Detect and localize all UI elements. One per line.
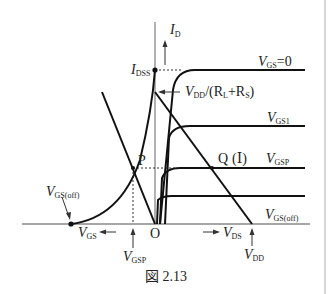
curve-vgs1-label: VGS1: [267, 110, 290, 126]
q-point: [210, 166, 214, 170]
figure-caption: 図 2.13: [145, 269, 187, 284]
vds-axis-label: VDS: [223, 225, 242, 241]
origin-label: O: [150, 226, 160, 241]
curve-vgs1: [165, 126, 305, 224]
curve-vgsp-label: VGSP: [266, 151, 290, 167]
idss-point: [152, 67, 157, 72]
curve-vgs-off-label: VGS(off): [265, 207, 299, 223]
vdd-rl-rs-label: VDD/(RL+RS): [185, 84, 255, 100]
p-point: [131, 166, 135, 170]
vgsp-bottom-label: VGSP: [123, 249, 147, 265]
p-label: P: [138, 153, 146, 168]
jfet-bias-diagram: ID IDSS VDD/(RL+RS) VGS=0 VGS1 Q (Ⅰ) VGS…: [0, 0, 330, 294]
vdd-bottom-label: VDD: [244, 247, 264, 263]
q-label: Q: [218, 151, 228, 166]
vgs-axis-label: VGS: [78, 225, 97, 241]
vgs-off-point: [68, 221, 73, 226]
transfer-curve: [71, 70, 155, 224]
idss-label: IDSS: [130, 62, 150, 78]
id-label: ID: [169, 22, 181, 39]
vgs-off-label: VGS(off): [46, 184, 80, 200]
bias-line: [102, 92, 155, 224]
curve-vgs0-label: VGS=0: [258, 54, 292, 70]
region-i-label: (Ⅰ): [232, 151, 247, 167]
